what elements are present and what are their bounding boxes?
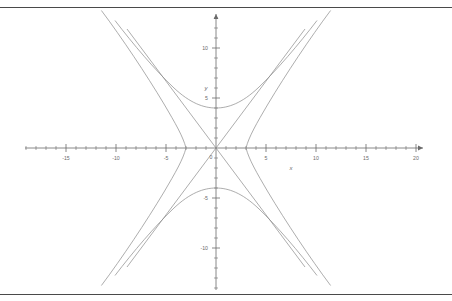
frame-top-border [0,7,452,8]
x-tick-label-10: 10 [313,155,319,161]
axes-group [25,14,423,290]
hyperbola-plot-figure: -15 -10 -5 0 5 10 15 20 10 5 -5 -10 x y [0,0,452,301]
x-tick-label-origin: 0 [210,154,213,160]
x-tick-label-neg5: -5 [164,155,169,161]
y-tick-label-5: 5 [205,95,208,101]
x-tick-label-20: 20 [413,155,419,161]
coordinate-plane-svg: -15 -10 -5 0 5 10 15 20 10 5 -5 -10 x y [0,0,452,301]
y-tick-label-10: 10 [202,45,208,51]
x-axis-tick-labels: -15 -10 -5 0 5 10 15 20 [62,154,419,161]
x-tick-label-5: 5 [265,155,268,161]
y-tick-label-neg5: -5 [203,195,208,201]
x-tick-label-neg10: -10 [112,155,120,161]
x-axis-label: x [289,165,294,171]
x-tick-label-15: 15 [363,155,369,161]
y-tick-label-neg10: -10 [201,245,209,251]
y-axis-label: y [204,85,209,91]
frame-bottom-border [0,294,452,295]
x-tick-label-neg15: -15 [62,155,70,161]
